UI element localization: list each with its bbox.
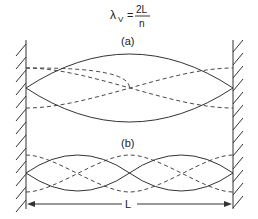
formula-lambda: λ	[110, 8, 116, 22]
panel-a-label: (a)	[121, 35, 134, 47]
left-wall	[16, 40, 26, 212]
length-label: L	[125, 198, 131, 210]
panel-a-waves	[26, 54, 233, 122]
wave-b-solid-2	[26, 155, 233, 191]
formula-equals: =	[127, 9, 133, 21]
right-wall	[233, 40, 243, 209]
formula-subscript: V	[118, 15, 124, 24]
wavelength-formula: λ V = 2L n	[110, 4, 150, 29]
panel-b-label: (b)	[121, 137, 134, 149]
formula-numerator: 2L	[136, 4, 148, 15]
wave-a-dashed-up	[26, 68, 233, 108]
arrow-left-icon	[27, 201, 35, 207]
panel-b-waves	[26, 155, 233, 192]
formula-denominator: n	[139, 18, 145, 29]
arrow-right-icon	[224, 201, 232, 207]
standing-wave-diagram: λ V = 2L n (a) (b)	[0, 0, 258, 219]
